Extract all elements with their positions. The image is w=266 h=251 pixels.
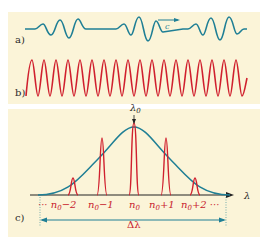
axis-label-lambda: λ (243, 190, 250, 201)
bandwidth-arrow-left-icon (40, 218, 47, 223)
continuous-wave (26, 60, 247, 96)
panel-c: λ λ0 ··· n0−2 n0−1 n0 n0+1 n0+2 ··· Δλ c… (8, 109, 260, 237)
mode-label: n0+1 (149, 199, 175, 212)
bandwidth-arrow-right-icon (219, 218, 226, 223)
mode-n0-minus1 (97, 138, 107, 195)
mode-label: n0 (129, 199, 140, 212)
mode-n0-plus1 (161, 138, 171, 195)
panel-label-b: b) (15, 87, 25, 98)
gain-envelope-curve (38, 127, 230, 195)
spectrum-svg: λ λ0 ··· n0−2 n0−1 n0 n0+1 n0+2 ··· Δλ c… (8, 109, 260, 237)
pulse-train-wave (25, 17, 247, 41)
waves-ab-svg: c a) b) (8, 12, 260, 104)
mode-label: ··· n0−2 (38, 199, 76, 212)
panel-label-c: c) (15, 212, 25, 223)
speed-label: c (165, 22, 170, 31)
panel-label-a: a) (15, 34, 25, 45)
mode-label: n0+2 ··· (181, 199, 219, 212)
bandwidth-label: Δλ (127, 219, 141, 230)
mode-n0 (129, 123, 139, 195)
arrow-head-icon (174, 18, 180, 22)
longitudinal-modes (68, 123, 200, 195)
center-arrow-icon (132, 119, 136, 124)
mode-label: n0−1 (88, 199, 114, 212)
panel-ab: c a) b) (8, 12, 260, 104)
